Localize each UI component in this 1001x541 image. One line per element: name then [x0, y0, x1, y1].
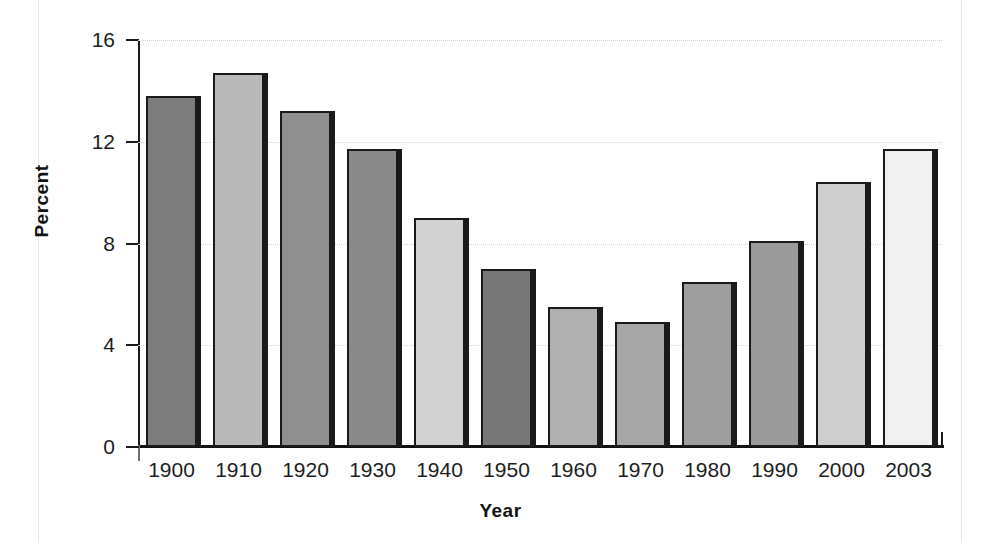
x-tick-label-2000: 2000: [808, 459, 875, 480]
x-tick-label-1970: 1970: [607, 459, 674, 480]
bar-1990: [749, 241, 800, 447]
page-edge-left-line: [38, 0, 39, 541]
bar-1980: [682, 282, 733, 447]
bar-1950: [481, 269, 532, 447]
y-axis-title: Percent: [31, 141, 53, 261]
x-tick-label-2003: 2003: [875, 459, 942, 480]
x-tick-label-1950: 1950: [473, 459, 540, 480]
x-tick-label-1980: 1980: [674, 459, 741, 480]
x-tick-label-1960: 1960: [540, 459, 607, 480]
x-axis-title: Year: [0, 500, 1001, 522]
x-tick-label-1920: 1920: [272, 459, 339, 480]
bar-1970: [615, 322, 666, 447]
bar-1920: [280, 111, 331, 447]
x-tick-label-1910: 1910: [205, 459, 272, 480]
bar-1910: [213, 73, 264, 447]
bar-1930: [347, 149, 398, 447]
y-tick-label-4: 4: [75, 334, 115, 355]
bar-2000: [816, 182, 867, 447]
bar-1900: [146, 96, 197, 447]
y-tick-label-0: 0: [75, 436, 115, 457]
page-edge-right-line: [961, 0, 962, 541]
bar-1940: [414, 218, 465, 447]
bar-1960: [548, 307, 599, 447]
x-tick-label-1900: 1900: [138, 459, 205, 480]
gridline-16: [138, 40, 942, 41]
x-tick-label-1990: 1990: [741, 459, 808, 480]
y-tick-label-12: 12: [75, 131, 115, 152]
x-tick-label-1940: 1940: [406, 459, 473, 480]
y-tick-label-16: 16: [75, 29, 115, 50]
x-tick-label-1930: 1930: [339, 459, 406, 480]
y-tick-label-8: 8: [75, 233, 115, 254]
chart-figure: Percent 0481216 190019101920193019401950…: [0, 0, 1001, 541]
plot-area: [138, 40, 942, 447]
bar-2003: [883, 149, 934, 447]
